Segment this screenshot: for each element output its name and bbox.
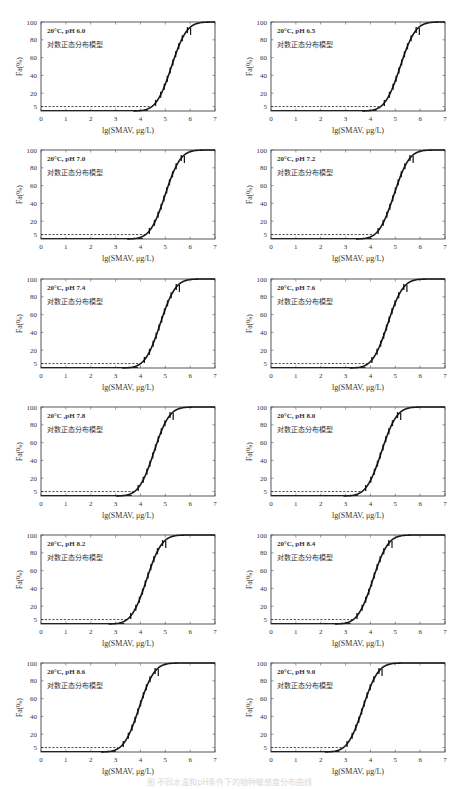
y-tick-label: 40 [260,713,268,721]
y-tick-label: 60 [260,695,268,703]
panel-subtitle: 对数正态分布模型 [47,40,103,49]
y-tick-label: 20 [260,347,268,355]
y-axis-label: Fa(%) [245,57,254,76]
y-axis-label: Fa(%) [15,185,24,204]
y-tick-label: 40 [260,329,268,337]
x-tick-label: 7 [443,243,447,251]
panel-title: 20°C, pH 6.0 [47,27,86,35]
x-tick-label: 7 [213,243,217,251]
x-axis-label: lg(SMAV, μg/L) [332,126,384,135]
x-tick-label: 2 [319,628,323,636]
x-tick-label: 6 [188,372,192,380]
x-axis-label: lg(SMAV, μg/L) [332,767,384,776]
y-tick-label: 80 [30,36,38,44]
x-tick-label: 2 [319,500,323,508]
x-tick-label: 1 [294,756,298,764]
x-tick-label: 5 [394,628,398,636]
panel-subtitle: 对数正态分布模型 [47,553,103,562]
plot-frame [271,407,445,496]
x-tick-label: 4 [139,372,143,380]
y-tick-label: 100 [257,660,268,668]
y-tick-label: 80 [30,293,38,301]
x-tick-label: 6 [418,243,422,251]
fitted-cdf-curve [127,150,215,239]
panel-subtitle: 对数正态分布模型 [277,425,333,434]
x-tick-label: 1 [64,500,68,508]
y-tick-label: 40 [260,200,268,208]
panel-title: 20°C, pH 7.4 [47,284,86,292]
y-tick-label: 5 [34,488,38,496]
y-tick-label: 80 [260,549,268,557]
ssd-panel-12: 52040608010001234567lg(SMAV, μg/L)Fa(%)2… [245,660,447,777]
y-tick-label: 5 [264,231,268,239]
y-tick-label: 100 [27,660,38,668]
x-tick-label: 2 [319,756,323,764]
x-tick-label: 0 [269,243,273,251]
y-tick-label: 100 [27,404,38,412]
y-tick-label: 20 [30,90,38,98]
x-tick-label: 3 [114,115,118,123]
x-tick-label: 6 [188,115,192,123]
x-tick-label: 2 [319,243,323,251]
y-axis-label: Fa(%) [15,698,24,717]
x-tick-label: 7 [213,500,217,508]
ssd-panel-7: 52040608010001234567lg(SMAV, μg/L)Fa(%)2… [15,404,217,521]
x-tick-label: 3 [344,243,348,251]
x-tick-label: 2 [319,372,323,380]
ssd-panel-5: 52040608010001234567lg(SMAV, μg/L)Fa(%)2… [15,276,217,393]
y-tick-label: 40 [260,585,268,593]
x-tick-label: 0 [269,756,273,764]
x-tick-label: 6 [188,756,192,764]
y-tick-label: 5 [264,103,268,111]
ssd-panel-11: 52040608010001234567lg(SMAV, μg/L)Fa(%)2… [15,660,217,777]
y-tick-label: 5 [264,360,268,368]
panel-subtitle: 对数正态分布模型 [277,681,333,690]
panel-title: 20°C, pH 8.2 [47,540,86,548]
x-tick-label: 6 [418,500,422,508]
panel-title: 20°C, pH 8.4 [277,540,316,548]
ssd-panel-4: 52040608010001234567lg(SMAV, μg/L)Fa(%)2… [245,147,447,264]
y-tick-label: 100 [257,19,268,27]
y-tick-label: 40 [30,585,38,593]
plot-frame [41,535,215,624]
ssd-panel-1: 52040608010001234567lg(SMAV, μg/L)Fa(%)2… [15,19,217,136]
y-tick-label: 40 [30,329,38,337]
ssd-panel-8: 52040608010001234567lg(SMAV, μg/L)Fa(%)2… [245,404,447,521]
x-tick-label: 6 [188,243,192,251]
y-tick-label: 80 [30,164,38,172]
x-tick-label: 4 [369,628,373,636]
plot-frame [41,150,215,239]
x-tick-label: 7 [213,372,217,380]
x-tick-label: 3 [114,628,118,636]
x-tick-label: 7 [443,372,447,380]
x-tick-label: 7 [213,115,217,123]
x-tick-label: 5 [394,243,398,251]
plot-frame [271,279,445,368]
x-tick-label: 4 [369,243,373,251]
y-tick-label: 60 [30,54,38,62]
panel-subtitle: 对数正态分布模型 [277,168,333,177]
x-axis-label: lg(SMAV, μg/L) [332,511,384,520]
x-tick-label: 1 [294,628,298,636]
y-tick-label: 80 [260,293,268,301]
y-tick-label: 100 [27,147,38,155]
x-tick-label: 0 [39,115,43,123]
panel-subtitle: 对数正态分布模型 [277,553,333,562]
x-tick-label: 0 [39,628,43,636]
figure-caption: 图 不同水温和pH条件下的物种敏感度分布曲线 [0,776,459,787]
x-tick-label: 3 [344,756,348,764]
y-tick-label: 100 [257,404,268,412]
y-axis-label: Fa(%) [245,185,254,204]
y-tick-label: 100 [257,532,268,540]
y-tick-label: 40 [30,457,38,465]
x-tick-label: 3 [344,628,348,636]
y-tick-label: 60 [30,311,38,319]
fitted-cdf-curve [325,663,445,752]
y-tick-label: 40 [30,200,38,208]
y-tick-label: 80 [30,421,38,429]
x-tick-label: 6 [418,628,422,636]
plot-frame [271,535,445,624]
ssd-figure: 52040608010001234567lg(SMAV, μg/L)Fa(%)2… [0,0,459,789]
x-tick-label: 3 [114,243,118,251]
x-tick-label: 2 [319,115,323,123]
